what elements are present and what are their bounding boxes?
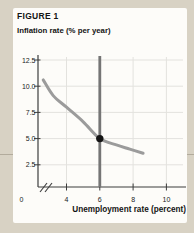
x-tick-label: 10 (163, 196, 171, 203)
x-tick-label: 6 (98, 196, 102, 203)
x-axis-title: Unemployment rate (percent) (72, 205, 186, 214)
equilibrium-point (96, 135, 103, 142)
y-tick-label: 5.0 (26, 135, 36, 142)
y-tick-label: 7.5 (26, 109, 36, 116)
x-tick-label: 4 (65, 196, 69, 203)
y-tick-label: 12.5 (22, 57, 36, 64)
textbook-page: FIGURE 1 Inflation rate (% per year) 2.5… (0, 0, 194, 233)
phillips-curve (43, 80, 143, 153)
x-tick-label: 8 (131, 196, 135, 203)
phillips-curve-chart: 2.55.07.510.012.5046810 (0, 0, 194, 233)
y-tick-label: 2.5 (26, 161, 36, 168)
y-tick-label: 10.0 (22, 83, 36, 90)
x-tick-label: 0 (20, 196, 24, 203)
